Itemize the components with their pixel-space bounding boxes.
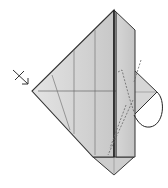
- right-flap: [134, 70, 157, 115]
- bottom-point-layer: [93, 157, 134, 175]
- right-strip: [114, 10, 135, 157]
- main-diamond: [32, 10, 130, 157]
- origami-diagram: [0, 0, 168, 188]
- turn-over-arrow-icon: [13, 70, 28, 84]
